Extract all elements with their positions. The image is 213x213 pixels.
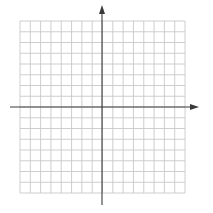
y-axis-arrow-icon xyxy=(99,5,105,14)
axes xyxy=(10,5,199,205)
x-axis-arrow-icon xyxy=(190,104,199,110)
coordinate-plane xyxy=(0,0,213,213)
